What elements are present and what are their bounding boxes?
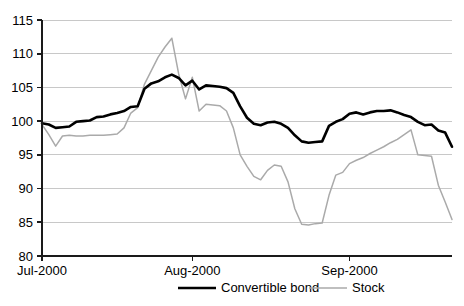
series-group [42,38,452,225]
x-tick-label: Aug-2000 [164,263,220,278]
legend-label-stock: Stock [352,280,385,295]
line-chart: 80859095100105110115 Jul-2000Aug-2000Sep… [0,0,464,306]
y-tick-label: 105 [11,80,33,95]
y-tick-label: 110 [12,46,33,61]
x-tick-label: Jul-2000 [17,263,67,278]
x-tick-label: Sep-2000 [321,263,377,278]
y-tick-label: 80 [19,249,33,264]
series-line-stock [42,38,452,225]
y-tick-label: 85 [19,215,33,230]
y-tick-label: 95 [19,147,33,162]
chart-container: 80859095100105110115 Jul-2000Aug-2000Sep… [0,0,464,306]
chart-legend: Convertible bond Stock [178,280,385,295]
y-axis-tick-labels: 80859095100105110115 [11,13,33,264]
x-axis-tick-labels: Jul-2000Aug-2000Sep-2000 [17,263,378,278]
legend-label-convertible-bond: Convertible bond [221,280,319,295]
gridlines-group [37,20,452,256]
y-tick-label: 100 [11,114,33,129]
y-tick-label: 115 [12,13,33,28]
y-tick-label: 90 [19,181,33,196]
